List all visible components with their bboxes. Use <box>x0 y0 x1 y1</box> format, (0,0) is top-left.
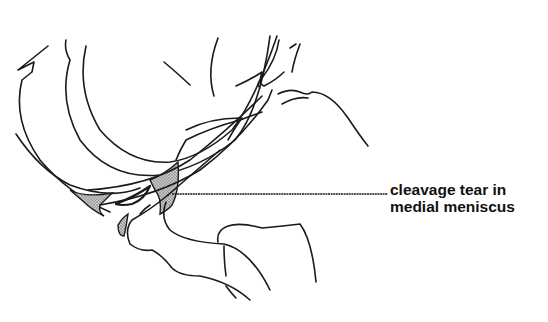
knee-anatomy-drawing <box>0 0 548 322</box>
tibia-outline <box>127 150 316 300</box>
ligament-lines <box>88 38 368 205</box>
annotation-label: cleavage tear in medial meniscus <box>390 181 515 215</box>
diagram-canvas: cleavage tear in medial meniscus <box>0 0 548 322</box>
annotation-line-1: cleavage tear in <box>390 181 515 198</box>
annotation-line-2: medial meniscus <box>390 198 515 215</box>
